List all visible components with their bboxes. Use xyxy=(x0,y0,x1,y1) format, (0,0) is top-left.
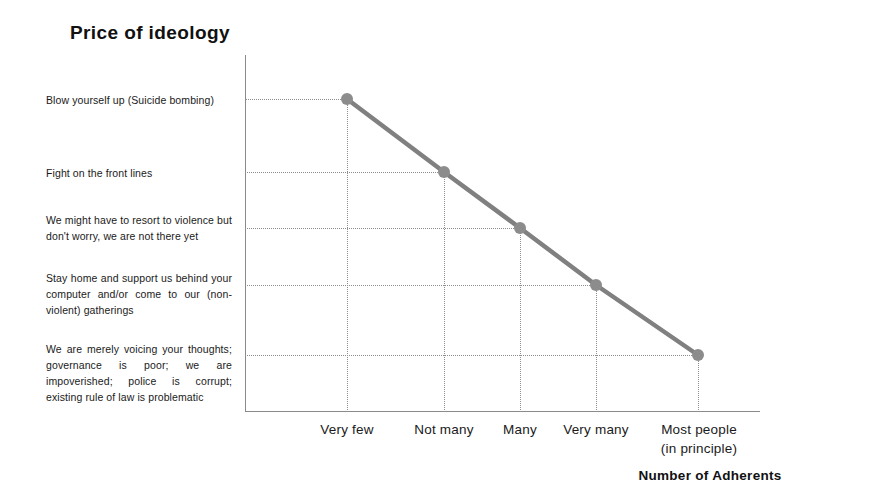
y-category-label-3: We might have to resort to violence but … xyxy=(46,212,232,244)
chart-figure: Price of ideology Blow yourself up (Suic… xyxy=(0,0,877,501)
data-point-marker-3[interactable] xyxy=(514,222,526,234)
chart-title: Price of ideology xyxy=(70,22,230,44)
data-point-marker-5[interactable] xyxy=(692,349,704,361)
x-axis-title: Number of Adherents xyxy=(638,468,781,483)
x-category-label-5: Most people (in principle) xyxy=(638,420,760,458)
data-point-marker-1[interactable] xyxy=(341,93,353,105)
y-category-label-1: Blow yourself up (Suicide bombing) xyxy=(46,92,232,108)
y-category-label-5: We are merely voicing your thoughts; gov… xyxy=(46,341,232,405)
data-point-marker-4[interactable] xyxy=(590,279,602,291)
y-category-label-2: Fight on the front lines xyxy=(46,165,232,181)
y-category-label-4: Stay home and support us behind your com… xyxy=(46,270,232,318)
data-series-line xyxy=(245,55,760,412)
plot-area xyxy=(245,55,760,412)
data-point-marker-2[interactable] xyxy=(438,166,450,178)
